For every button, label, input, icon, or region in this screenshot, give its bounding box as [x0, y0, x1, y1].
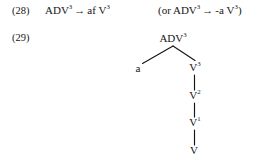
- tree-node-root-label: ADV: [159, 32, 183, 44]
- tree-node-v3: V3: [189, 62, 200, 73]
- tree-node-v1-superscript: 1: [197, 115, 200, 122]
- tree-node-v3-superscript: 3: [197, 60, 200, 67]
- branch-root-to-a: [143, 46, 174, 64]
- rule-28-lhs: ADV: [45, 4, 69, 16]
- rule-28-rhs-affix: af: [87, 4, 96, 16]
- tree-node-v3-label: V: [189, 61, 197, 73]
- alt-close-paren: ): [238, 4, 242, 16]
- rule-28-arrow-icon: →: [72, 4, 87, 16]
- alt-rhs-affix: -a: [215, 4, 224, 16]
- rule-28-rhs-superscript: 3: [107, 3, 110, 10]
- tree-node-v1: V1: [189, 117, 200, 128]
- document-page: (28) ADV3→af V3 (or ADV3→-a V3) (29) ADV…: [0, 0, 273, 166]
- tree-node-v2: V2: [189, 90, 200, 101]
- tree-node-v1-label: V: [189, 116, 197, 128]
- syntax-tree-branches: [0, 0, 273, 166]
- branch-root-to-v3: [173, 46, 195, 61]
- rule-28-rhs: V: [99, 4, 107, 16]
- alt-open-paren: (or: [158, 4, 173, 16]
- tree-node-v-label: V: [190, 144, 198, 156]
- example-number-28: (28): [12, 6, 30, 17]
- rule-28-alternative-expression: (or ADV3→-a V3): [158, 5, 242, 16]
- tree-node-v2-label: V: [189, 89, 197, 101]
- tree-node-v: V: [190, 145, 198, 156]
- alt-arrow-icon: →: [200, 4, 215, 16]
- tree-leaf-a-label: a: [136, 62, 141, 74]
- tree-node-root-adv3: ADV3: [159, 33, 186, 44]
- tree-leaf-a: a: [136, 63, 141, 74]
- alt-lhs: ADV: [173, 4, 197, 16]
- example-number-29: (29): [12, 33, 30, 44]
- tree-node-v2-superscript: 2: [197, 88, 200, 95]
- rule-28-expression: ADV3→af V3: [45, 5, 110, 16]
- tree-node-root-superscript: 3: [183, 31, 186, 38]
